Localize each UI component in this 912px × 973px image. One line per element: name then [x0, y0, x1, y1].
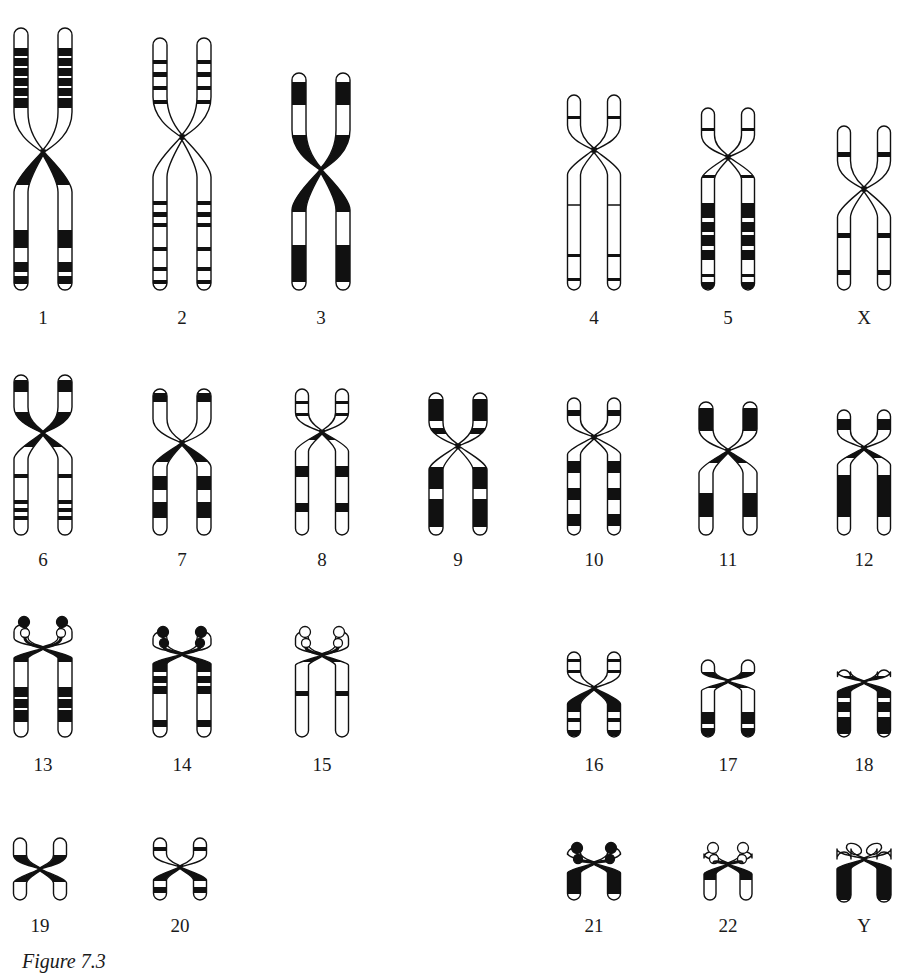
figure-caption: Figure 7.3: [22, 950, 106, 973]
chromosome-label-y: Y: [834, 916, 894, 935]
